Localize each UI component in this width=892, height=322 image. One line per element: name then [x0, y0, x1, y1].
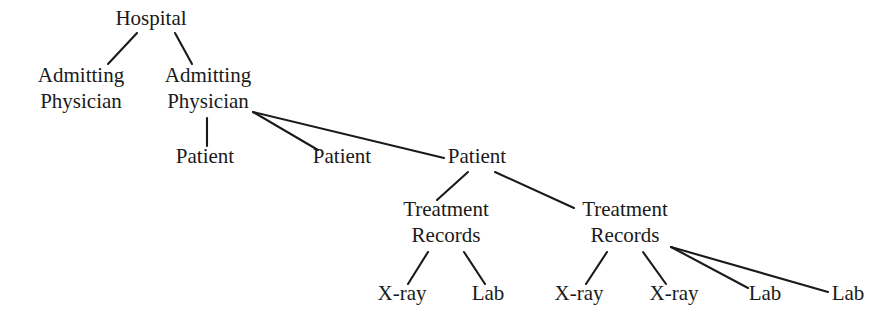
node-patient-2-line-0: Patient [313, 144, 371, 168]
node-treatment-records-2-line-0: Treatment [582, 197, 668, 221]
node-treatment-records-1-line-0: Treatment [403, 197, 489, 221]
edge-hospital-to-admitting-physician-1 [108, 33, 137, 64]
node-treatment-records-2-line-1: Records [591, 223, 660, 247]
node-xray-1: X-ray [378, 281, 427, 305]
node-patient-2: Patient [313, 144, 371, 168]
node-hospital-line-0: Hospital [115, 6, 186, 30]
edge-patient-3-to-treatment-records-2 [495, 172, 574, 208]
node-lab-1: Lab [472, 281, 505, 305]
node-treatment-records-1-line-1: Records [412, 223, 481, 247]
node-xray-1-line-0: X-ray [378, 281, 427, 305]
tree-diagram-canvas: HospitalAdmittingPhysicianAdmittingPhysi… [0, 0, 892, 322]
node-lab-2-line-0: Lab [749, 281, 782, 305]
edge-treatment-records-2-to-xray-2 [586, 252, 607, 284]
node-xray-2: X-ray [555, 281, 604, 305]
node-treatment-records-1: TreatmentRecords [403, 197, 489, 247]
node-admitting-physician-1-line-0: Admitting [38, 63, 125, 87]
node-xray-3-line-0: X-ray [650, 281, 699, 305]
node-patient-3: Patient [448, 144, 506, 168]
edge-treatment-records-2-to-xray-3 [643, 252, 666, 284]
node-admitting-physician-2: AdmittingPhysician [165, 63, 252, 113]
node-patient-1-line-0: Patient [176, 144, 234, 168]
node-admitting-physician-1-line-1: Physician [40, 89, 122, 113]
edge-admitting-physician-2-to-patient-2 [253, 112, 318, 150]
node-patient-1: Patient [176, 144, 234, 168]
edge-treatment-records-1-to-xray-1 [408, 252, 428, 284]
node-admitting-physician-2-line-0: Admitting [165, 63, 252, 87]
node-lab-3-line-0: Lab [832, 281, 865, 305]
node-lab-1-line-0: Lab [472, 281, 505, 305]
node-xray-3: X-ray [650, 281, 699, 305]
node-xray-2-line-0: X-ray [555, 281, 604, 305]
edge-patient-3-to-treatment-records-1 [437, 172, 468, 200]
hierarchy-tree-graphic: HospitalAdmittingPhysicianAdmittingPhysi… [0, 0, 892, 322]
nodes-group: HospitalAdmittingPhysicianAdmittingPhysi… [38, 6, 865, 305]
node-treatment-records-2: TreatmentRecords [582, 197, 668, 247]
node-lab-2: Lab [749, 281, 782, 305]
edge-treatment-records-1-to-lab-1 [464, 252, 485, 284]
node-hospital: Hospital [115, 6, 186, 30]
node-admitting-physician-1: AdmittingPhysician [38, 63, 125, 113]
node-patient-3-line-0: Patient [448, 144, 506, 168]
node-admitting-physician-2-line-1: Physician [167, 89, 249, 113]
node-lab-3: Lab [832, 281, 865, 305]
edge-hospital-to-admitting-physician-2 [175, 33, 192, 64]
